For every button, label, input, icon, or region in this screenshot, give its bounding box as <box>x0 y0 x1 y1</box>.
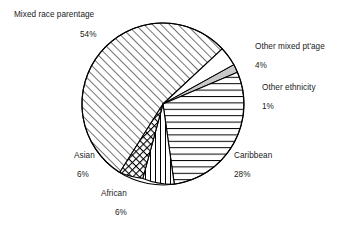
pie-slices <box>82 23 244 185</box>
value-other-ethnicity: 1% <box>262 103 274 111</box>
value-mixed-race-parentage: 54% <box>80 31 97 39</box>
value-caribbean: 28% <box>234 171 251 179</box>
label-asian: Asian <box>74 152 95 160</box>
pie-chart-graphic <box>0 0 353 229</box>
value-other-mixed-ptage: 4% <box>255 62 267 70</box>
value-african: 6% <box>115 209 127 217</box>
pie-chart-figure: Mixed race parentage 54% Other mixed pt'… <box>0 0 353 229</box>
value-asian: 6% <box>77 171 89 179</box>
label-african: African <box>101 190 127 198</box>
label-other-mixed-ptage: Other mixed pt'age <box>255 43 325 51</box>
label-mixed-race-parentage: Mixed race parentage <box>14 11 94 19</box>
label-caribbean: Caribbean <box>234 152 272 160</box>
label-other-ethnicity: Other ethnicity <box>262 84 316 92</box>
